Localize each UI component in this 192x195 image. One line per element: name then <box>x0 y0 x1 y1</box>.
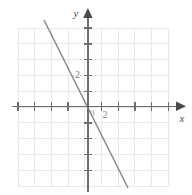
graph-figure: y x 2 2 0 <box>0 0 192 195</box>
plotted-line <box>44 20 128 188</box>
x-axis-arrowhead <box>176 102 186 111</box>
coordinate-plane-svg: y x 2 2 0 <box>0 0 192 195</box>
x-axis-group <box>12 102 186 111</box>
y-axis-label: y <box>73 7 79 19</box>
x-axis-tick-label-2: 2 <box>103 109 108 120</box>
y-axis-arrowhead <box>83 8 92 18</box>
origin-label: 0 <box>90 108 95 118</box>
x-axis-label: x <box>179 112 185 124</box>
y-axis-tick-label-2: 2 <box>75 69 80 80</box>
plotted-line-group <box>44 20 128 188</box>
